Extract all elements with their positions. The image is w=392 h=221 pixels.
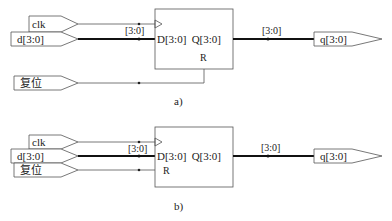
diagram-a: clk d[3:0] 复位 [3:0] D[3:0] Q[3:0] R [3:0… (11, 9, 382, 108)
reset-wire (78, 69, 204, 83)
d-port-label: D[3:0] (157, 150, 186, 162)
bus-label-in: [3:0] (128, 143, 147, 154)
q-label: q[3:0] (320, 150, 347, 162)
bus-label-out: [3:0] (262, 25, 281, 36)
input-port-reset-a[interactable]: 复位 (14, 76, 78, 90)
junction-dot (138, 169, 141, 172)
input-port-d-a[interactable]: d[3:0] (11, 32, 78, 46)
clk-label: clk (32, 18, 46, 30)
q-port-label: Q[3:0] (192, 33, 221, 45)
output-port-q-b[interactable]: q[3:0] (314, 149, 382, 163)
junction-dot (138, 82, 141, 85)
caption-b: b) (174, 200, 184, 213)
schematic-canvas: clk d[3:0] 复位 [3:0] D[3:0] Q[3:0] R [3:0… (0, 0, 392, 221)
d-label: d[3:0] (17, 150, 44, 162)
d-port-label: D[3:0] (157, 33, 186, 45)
r-port-label: R (163, 165, 170, 176)
q-label: q[3:0] (320, 33, 347, 45)
reset-label: 复位 (20, 76, 42, 89)
diagram-b: clk d[3:0] 复位 [3:0] D[3:0] R Q[3:0] [3:0… (11, 127, 382, 213)
d-label: d[3:0] (17, 33, 44, 45)
junction-dot (138, 155, 141, 158)
junction-dot (267, 38, 270, 41)
caption-a: a) (174, 95, 183, 108)
output-port-q-a[interactable]: q[3:0] (314, 32, 382, 46)
bus-label-out: [3:0] (261, 142, 280, 153)
input-port-reset-b[interactable]: 复位 (14, 163, 78, 177)
bus-label-in: [3:0] (125, 25, 144, 36)
input-port-d-b[interactable]: d[3:0] (11, 149, 78, 163)
r-port-label: R (200, 52, 207, 63)
q-port-label: Q[3:0] (192, 150, 221, 162)
reset-label: 复位 (20, 163, 42, 176)
junction-dot (138, 38, 141, 41)
input-port-clk-a[interactable]: clk (29, 16, 78, 32)
input-port-clk-b[interactable]: clk (29, 135, 78, 149)
clk-label: clk (32, 136, 46, 148)
junction-dot (267, 155, 270, 158)
